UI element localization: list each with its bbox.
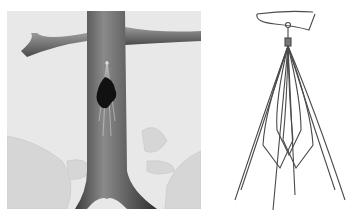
vena-cava-illustration [7,11,201,209]
filter-device-illustration [205,0,356,214]
retrieval-hook [257,14,315,30]
